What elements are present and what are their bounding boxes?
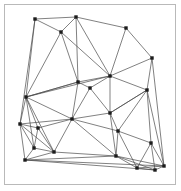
graph-edge <box>34 148 54 152</box>
graph-edge <box>110 58 152 76</box>
graph-node <box>153 168 156 171</box>
graph-edge <box>126 28 152 58</box>
graph-node <box>135 166 138 169</box>
graph-edge <box>54 119 72 152</box>
graph-node <box>18 122 21 125</box>
graph-node <box>74 15 77 18</box>
graph-edge <box>90 88 110 113</box>
graph-edge <box>110 76 147 90</box>
graph-edge <box>72 113 110 119</box>
graph-node <box>23 158 26 161</box>
graph-node <box>59 30 62 33</box>
graph-edge <box>152 58 164 166</box>
graph-node <box>150 56 153 59</box>
graph-edge <box>76 17 126 28</box>
graph-edge <box>35 17 76 19</box>
graph-edge <box>26 32 61 97</box>
graph-edge <box>26 76 110 97</box>
graph-edge <box>76 17 110 76</box>
graph-node <box>149 141 152 144</box>
graph-edge <box>38 128 54 152</box>
graph-edge <box>147 58 152 90</box>
graph-edge <box>110 90 147 113</box>
graph-plot-area <box>0 0 181 191</box>
graph-edge <box>76 17 78 82</box>
graph-edge <box>54 152 116 156</box>
graph-edge <box>116 131 118 156</box>
graph-node <box>88 86 91 89</box>
figure-root <box>0 0 181 191</box>
graph-node <box>76 80 79 83</box>
graph-node <box>70 117 73 120</box>
graph-node <box>24 95 27 98</box>
graph-edge <box>26 82 78 97</box>
graph-node <box>33 17 36 20</box>
graph-edge-layer <box>20 17 164 170</box>
graph-edge <box>35 19 61 32</box>
graph-node <box>114 154 117 157</box>
graph-edge <box>110 28 126 76</box>
graph-node <box>36 126 39 129</box>
graph-edge <box>78 82 90 88</box>
graph-node <box>108 111 111 114</box>
graph-edge <box>20 124 25 160</box>
graph-edge <box>20 119 72 124</box>
graph-edge <box>118 90 147 131</box>
graph-node <box>124 26 127 29</box>
graph-node <box>116 129 119 132</box>
graph-node <box>32 146 35 149</box>
graph-node <box>145 88 148 91</box>
graph-node <box>162 164 165 167</box>
graph-edge <box>25 156 116 160</box>
graph-node <box>52 150 55 153</box>
graph-node <box>108 74 111 77</box>
graph-edge <box>61 17 76 32</box>
